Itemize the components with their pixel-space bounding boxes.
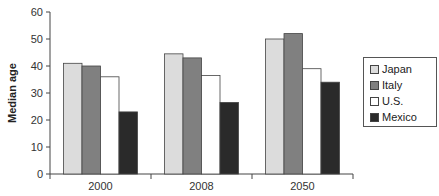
chart-legend: Japan Italy U.S. Mexico [363, 57, 437, 127]
y-tick-label: 10 [31, 141, 43, 153]
x-tick-label: 2000 [88, 180, 112, 192]
bar-japan-2050 [266, 39, 285, 174]
y-axis-label: Median age [6, 63, 18, 123]
bar-italy-2050 [284, 34, 303, 174]
bar-us-2000 [101, 77, 120, 174]
y-tick-label: 60 [31, 6, 43, 18]
legend-swatch-italy [370, 81, 379, 90]
bar-japan-2000 [64, 63, 83, 174]
legend-swatch-japan [370, 65, 379, 74]
y-tick-label: 30 [31, 87, 43, 99]
legend-label: Italy [382, 79, 402, 91]
x-tick-label: 2050 [290, 180, 314, 192]
legend-swatch-mexico [370, 113, 379, 122]
legend-label: Japan [382, 63, 412, 75]
legend-item-italy: Italy [370, 77, 436, 93]
legend-item-us: U.S. [370, 93, 436, 109]
bar-us-2008 [202, 75, 221, 174]
legend-swatch-us [370, 97, 379, 106]
x-tick-label: 2008 [189, 180, 213, 192]
legend-label: Mexico [382, 111, 417, 123]
bar-italy-2008 [183, 58, 202, 174]
bar-us-2050 [303, 69, 322, 174]
bar-italy-2000 [82, 66, 101, 174]
y-tick-label: 0 [37, 168, 43, 180]
bar-mexico-2008 [220, 102, 239, 174]
legend-label: U.S. [382, 95, 403, 107]
y-tick-label: 40 [31, 60, 43, 72]
y-tick-label: 20 [31, 114, 43, 126]
bar-mexico-2000 [119, 112, 138, 174]
bar-japan-2008 [165, 54, 184, 174]
legend-item-japan: Japan [370, 61, 436, 77]
y-tick-label: 50 [31, 33, 43, 45]
bar-mexico-2050 [321, 82, 340, 174]
legend-item-mexico: Mexico [370, 109, 436, 125]
